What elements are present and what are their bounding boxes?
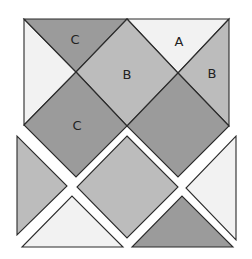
quilt-block-diagram: C A B B C: [0, 0, 252, 259]
label-center-b: B: [123, 67, 132, 82]
separated-pieces: [17, 136, 236, 247]
label-lower-c: C: [72, 118, 81, 133]
label-right-b: B: [208, 66, 217, 81]
label-top-a: A: [175, 34, 184, 49]
label-top-c: C: [70, 32, 79, 47]
